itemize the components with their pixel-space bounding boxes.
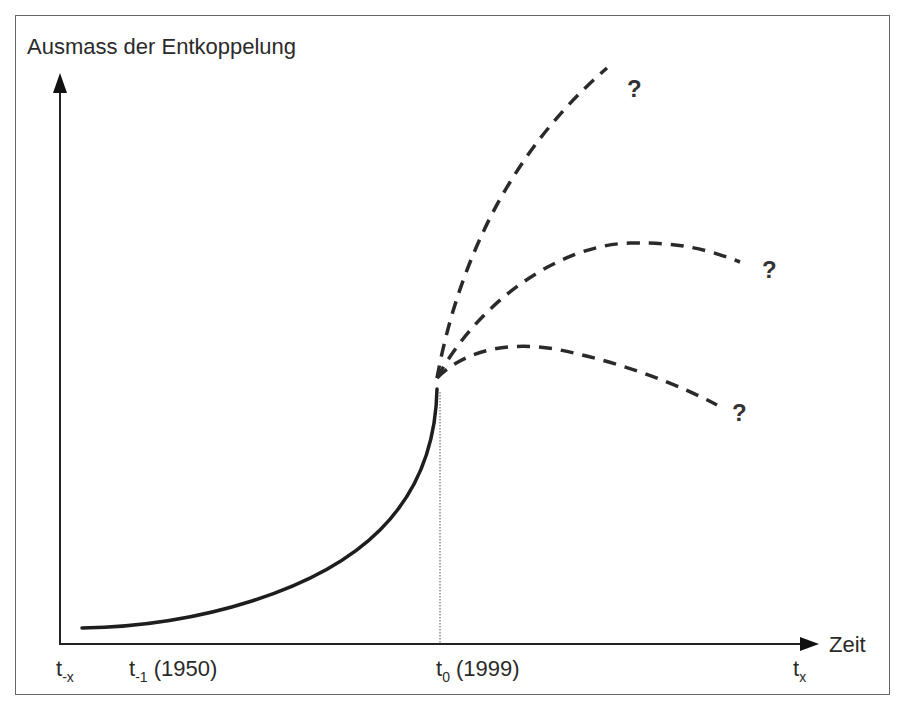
y-axis-arrow-icon (53, 73, 67, 93)
tick-sub: 0 (442, 669, 450, 685)
plot-area (0, 0, 903, 711)
question-mark-lower: ? (732, 401, 747, 425)
tick-t-x: tx (793, 658, 806, 684)
scenario-strong-growth-curve (437, 68, 607, 378)
tick-year: (1950) (154, 656, 218, 681)
x-axis-title: Zeit (829, 634, 866, 656)
tick-sub: -x (62, 669, 74, 685)
y-axis-title: Ausmass der Entkoppelung (27, 36, 296, 58)
scenario-decline-curve (437, 346, 717, 405)
historical-curve (82, 389, 437, 628)
tick-sub: -1 (135, 669, 147, 685)
x-axis-arrow-icon (800, 637, 819, 651)
tick-t-minus-1: t-1 (1950) (129, 658, 217, 684)
tick-sub: x (799, 669, 806, 685)
question-mark-middle: ? (762, 258, 777, 282)
tick-t-minus-x: t-x (56, 658, 74, 684)
question-mark-top: ? (627, 77, 642, 101)
tick-year: (1999) (456, 656, 520, 681)
tick-t-0: t0 (1999) (436, 658, 520, 684)
